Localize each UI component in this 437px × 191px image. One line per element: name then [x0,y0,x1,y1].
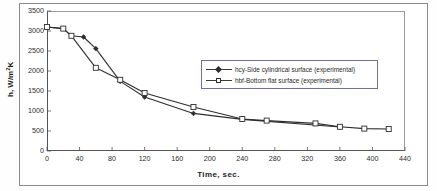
chart-legend: hcy-Side cylindrical surface (experiment… [201,60,378,89]
data-point-marker-open-square-icon [264,118,269,123]
data-point-marker-open-square-icon [362,126,367,131]
data-point-marker-open-square-icon [313,121,318,126]
data-point-marker-open-square-icon [142,91,147,96]
data-point-marker-open-square-icon [45,25,50,30]
chart-series-layer [0,0,437,191]
data-point-marker-open-square-icon [69,33,74,38]
data-point-marker-open-square-icon [386,127,391,132]
data-point-marker-open-square-icon [191,105,196,110]
data-point-marker-open-square-icon [337,124,342,129]
legend-item-hcy: hcy-Side cylindrical surface (experiment… [206,64,373,75]
legend-marker-filled-diamond-icon [206,65,232,74]
legend-marker-open-square-icon [206,76,232,85]
data-point-marker-open-square-icon [240,117,245,122]
legend-label-hbf: hbf-Bottom flat surface (experimental) [235,76,342,85]
data-point-marker-open-square-icon [93,65,98,70]
legend-label-hcy: hcy-Side cylindrical surface (experiment… [235,65,355,74]
data-point-marker-filled-diamond-icon [191,111,196,116]
chart-page: 0500100015002000250030003500 04080120160… [0,0,437,191]
data-point-marker-open-square-icon [118,77,123,82]
legend-item-hbf: hbf-Bottom flat surface (experimental) [206,75,373,86]
data-point-marker-open-square-icon [61,26,66,31]
